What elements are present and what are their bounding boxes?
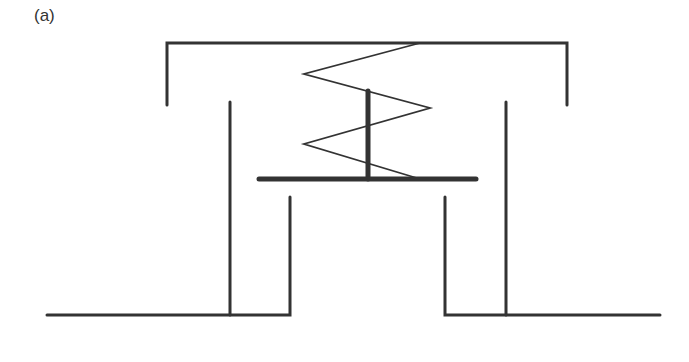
right-base (445, 197, 660, 315)
left-base (47, 197, 290, 315)
valve-diagram (0, 0, 689, 362)
